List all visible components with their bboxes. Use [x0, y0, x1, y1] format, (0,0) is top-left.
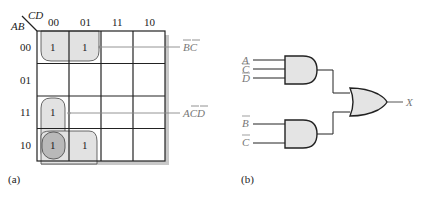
cell-00-00: 1 [50, 41, 56, 53]
logic-circuit: A C D B C X (b) [241, 54, 414, 186]
col-label-11: 11 [112, 16, 123, 28]
input-bbar: B [242, 117, 249, 129]
col-label-01: 01 [80, 16, 91, 28]
col-label-10: 10 [144, 16, 156, 28]
wire [317, 70, 350, 93]
row-label-00: 00 [20, 41, 32, 53]
or-gate [350, 88, 387, 116]
term-a-cbar-dbar: ACD [182, 107, 205, 119]
leader-dot [67, 111, 70, 114]
row-label-11: 11 [20, 106, 31, 118]
cell-10-01: 1 [82, 139, 88, 151]
row-label-10: 10 [20, 139, 32, 151]
row-var-label: AB [10, 20, 25, 32]
wire [317, 112, 350, 134]
input-cbar-2: C [242, 136, 250, 148]
and-gate-2 [285, 120, 317, 148]
cell-10-00: 1 [50, 139, 56, 151]
output-x: X [405, 96, 414, 108]
caption-a: (a) [8, 173, 21, 186]
karnaugh-map: CD AB 00 01 11 10 00 01 11 10 1 1 1 1 1 … [8, 9, 208, 186]
diagram-canvas: CD AB 00 01 11 10 00 01 11 10 1 1 1 1 1 … [0, 0, 422, 199]
col-var-label: CD [28, 9, 43, 21]
leader-dot [98, 45, 101, 48]
and-gate-1 [285, 56, 317, 84]
input-dbar: D [241, 72, 250, 84]
term-bbar-cbar: BC [183, 41, 198, 53]
row-label-01: 01 [20, 74, 31, 86]
cell-11-00: 1 [50, 106, 56, 118]
col-label-00: 00 [48, 16, 60, 28]
caption-b: (b) [241, 173, 254, 186]
cell-00-01: 1 [82, 41, 88, 53]
